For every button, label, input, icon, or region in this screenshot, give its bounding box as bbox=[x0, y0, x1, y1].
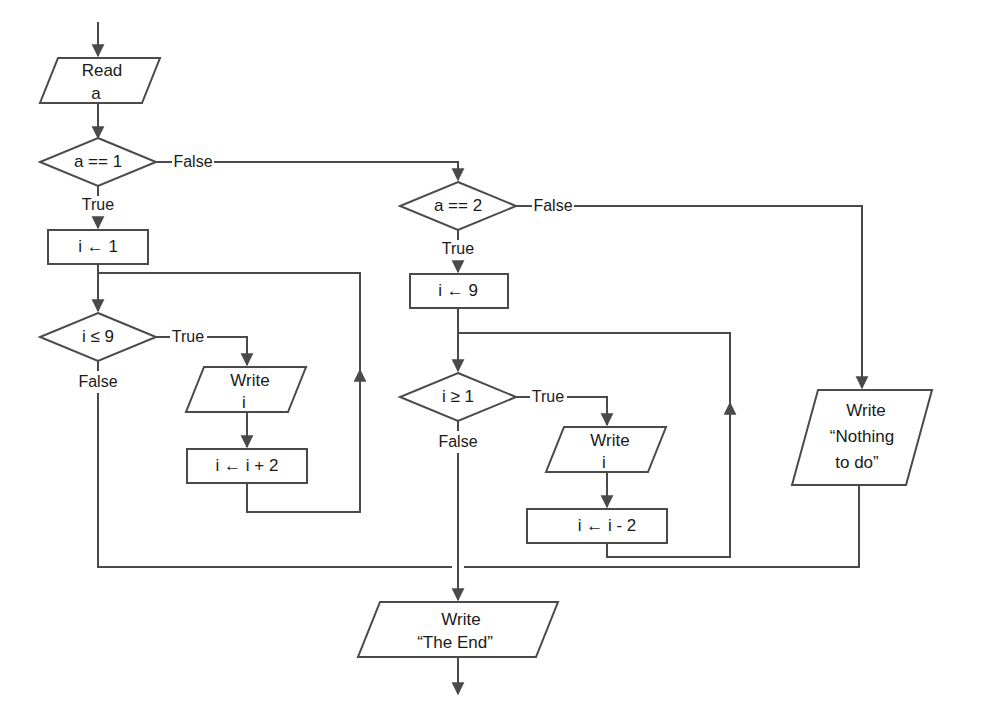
node-read-a-line1: Read bbox=[82, 61, 123, 82]
edge-dec-i-loop-back bbox=[458, 333, 730, 405]
edge-label-ile9-false: False bbox=[78, 372, 117, 392]
node-inc-i-label: i ← i + 2 bbox=[216, 456, 279, 477]
edge-label-ige1-false: False bbox=[438, 432, 477, 452]
node-init-i9-label: i ← 9 bbox=[438, 281, 478, 302]
edge-label-a2-false: False bbox=[533, 196, 572, 216]
edge-ile9-true bbox=[207, 337, 247, 365]
edge-nothing-to-end bbox=[464, 485, 859, 567]
node-cond-ige1-label: i ≥ 1 bbox=[442, 387, 474, 408]
node-cond-ile9-label: i ≤ 9 bbox=[82, 327, 114, 348]
node-read-a-line2: a bbox=[91, 84, 100, 105]
node-write-i-2-line1: Write bbox=[590, 431, 629, 452]
edge-label-ige1-true: True bbox=[532, 387, 564, 407]
edge-ile9-false bbox=[98, 393, 452, 567]
node-dec-i-label: i ← i - 2 bbox=[578, 516, 637, 537]
flowchart-canvas: Read a a == 1 i ← 1 i ≤ 9 Write i i ← i … bbox=[0, 0, 984, 719]
node-write-end-line1: Write bbox=[441, 610, 480, 631]
node-cond-a2-label: a == 2 bbox=[434, 196, 482, 217]
node-init-i1-label: i ← 1 bbox=[78, 237, 118, 258]
node-write-nothing-line2: “Nothing bbox=[830, 427, 894, 448]
edge-a1-false bbox=[214, 162, 458, 180]
edge-label-a1-false: False bbox=[173, 152, 212, 172]
flowchart-svg bbox=[0, 0, 984, 719]
edge-label-a1-true: True bbox=[82, 195, 114, 215]
edge-inc-i-loop-back bbox=[98, 273, 360, 372]
edge-a2-false bbox=[574, 206, 862, 388]
node-write-i-2-line2: i bbox=[602, 453, 606, 474]
node-write-i-1-line2: i bbox=[242, 393, 246, 414]
edge-label-a2-true: True bbox=[442, 239, 474, 259]
node-write-nothing-line1: Write bbox=[846, 401, 885, 422]
node-cond-a1-label: a == 1 bbox=[74, 152, 122, 173]
edge-ige1-true bbox=[567, 397, 607, 425]
node-write-i-1-line1: Write bbox=[230, 371, 269, 392]
node-write-end-line2: “The End” bbox=[417, 633, 493, 654]
edge-label-ile9-true: True bbox=[172, 327, 204, 347]
node-write-nothing-line3: to do” bbox=[835, 453, 878, 474]
